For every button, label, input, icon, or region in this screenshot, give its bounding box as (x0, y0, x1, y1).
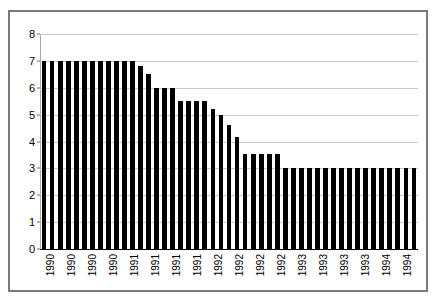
bar (66, 61, 71, 249)
bar (283, 168, 288, 249)
bar (404, 168, 409, 249)
bar (412, 168, 417, 249)
x-tick-label: 1990 (88, 254, 98, 276)
bar (154, 88, 159, 249)
y-tick-label: 4 (29, 136, 35, 147)
bar (42, 61, 47, 249)
bar (331, 168, 336, 249)
x-tick-label: 1991 (151, 254, 161, 276)
bar (307, 168, 312, 249)
bar (122, 61, 127, 249)
x-tick-label: 1994 (403, 254, 413, 276)
bar (106, 61, 111, 249)
x-tick-label: 1993 (361, 254, 371, 276)
chart-frame: 012345678 199019901990199019911991199119… (8, 10, 428, 292)
bar (194, 101, 199, 249)
y-tick-label: 6 (29, 82, 35, 93)
bar (170, 88, 175, 249)
bar (74, 61, 79, 249)
x-tick-label: 1992 (256, 254, 266, 276)
bar (58, 61, 63, 249)
x-axis-ticks: 1990199019901990199119911991199119921992… (40, 252, 418, 298)
x-tick-label: 1990 (67, 254, 77, 276)
y-tick-label: 3 (29, 163, 35, 174)
bar (227, 125, 232, 249)
bar-series (40, 34, 418, 249)
x-tick-label: 1991 (172, 254, 182, 276)
bar (130, 61, 135, 249)
x-tick-label: 1993 (298, 254, 308, 276)
bar (202, 101, 207, 249)
bar (395, 168, 400, 249)
x-tick-label: 1992 (235, 254, 245, 276)
x-tick-label: 1993 (319, 254, 329, 276)
bar (299, 168, 304, 249)
bar (347, 168, 352, 249)
bar (114, 61, 119, 249)
bar (211, 109, 216, 249)
bar (363, 168, 368, 249)
bar (339, 168, 344, 249)
plot-area: 012345678 (40, 34, 418, 249)
bar (98, 61, 103, 249)
bar (82, 61, 87, 249)
bar (162, 88, 167, 249)
bar (251, 154, 256, 249)
y-tick-label: 7 (29, 55, 35, 66)
bar (243, 154, 248, 249)
x-tick-label: 1991 (130, 254, 140, 276)
y-tick-label: 2 (29, 190, 35, 201)
bar (235, 137, 240, 249)
bar (259, 154, 264, 249)
y-tick-label: 1 (29, 217, 35, 228)
bar (138, 66, 143, 249)
bar (90, 61, 95, 249)
y-tick-label: 5 (29, 109, 35, 120)
bar (219, 115, 224, 249)
bar (50, 61, 55, 249)
x-tick-label: 1992 (214, 254, 224, 276)
y-tick-label: 0 (29, 244, 35, 255)
x-tick-label: 1992 (277, 254, 287, 276)
bar (186, 101, 191, 249)
bar (379, 168, 384, 249)
bar (315, 168, 320, 249)
bar (355, 168, 360, 249)
x-tick-label: 1993 (340, 254, 350, 276)
x-tick-label: 1990 (46, 254, 56, 276)
y-tick-label: 8 (29, 29, 35, 40)
bar (371, 168, 376, 249)
bar (291, 168, 296, 249)
bar (323, 168, 328, 249)
bar (267, 154, 272, 249)
x-axis-baseline (40, 249, 418, 250)
x-tick-label: 1991 (193, 254, 203, 276)
bar (178, 101, 183, 249)
x-tick-label: 1990 (109, 254, 119, 276)
x-tick-label: 1994 (382, 254, 392, 276)
bar (275, 154, 280, 249)
bar (387, 168, 392, 249)
bar (146, 74, 151, 249)
